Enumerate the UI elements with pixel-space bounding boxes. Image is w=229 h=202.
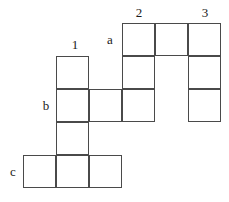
grid-cell[interactable] — [155, 23, 188, 56]
grid-cell[interactable] — [89, 89, 122, 122]
grid-cell[interactable] — [188, 56, 221, 89]
row-label-b: b — [39, 99, 53, 112]
grid-cell[interactable] — [89, 155, 122, 188]
grid-cell[interactable] — [188, 23, 221, 56]
grid-cell[interactable] — [188, 89, 221, 122]
column-label-1: 1 — [66, 38, 84, 51]
grid-cell[interactable] — [56, 89, 89, 122]
row-label-a: a — [103, 33, 117, 46]
grid-cell[interactable] — [56, 56, 89, 89]
grid-cell[interactable] — [56, 122, 89, 155]
column-label-2: 2 — [130, 6, 148, 19]
grid-puzzle-diagram: 123abc — [0, 0, 229, 202]
grid-cell[interactable] — [23, 155, 56, 188]
grid-cell[interactable] — [122, 56, 155, 89]
column-label-3: 3 — [196, 6, 214, 19]
grid-cell[interactable] — [122, 89, 155, 122]
row-label-c: c — [6, 165, 20, 178]
grid-cell[interactable] — [56, 155, 89, 188]
grid-cell[interactable] — [122, 23, 155, 56]
